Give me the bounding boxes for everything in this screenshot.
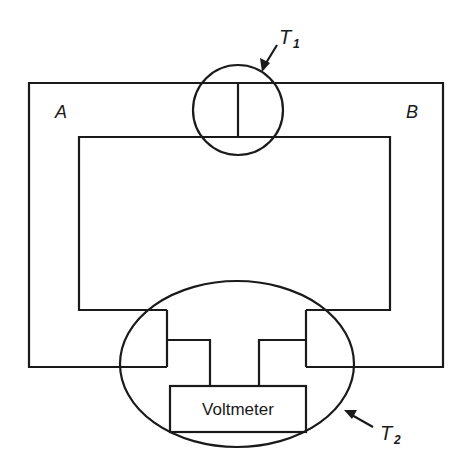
junction-t2-ellipse <box>120 281 354 447</box>
thermocouple-diagram: A B T 1 T 2 Voltmeter <box>0 0 466 466</box>
left-lead <box>167 340 210 386</box>
wire-b-inner <box>238 137 390 310</box>
label-t2-subscript: 2 <box>393 433 401 447</box>
voltmeter-label: Voltmeter <box>202 400 274 419</box>
label-b: B <box>406 102 418 122</box>
wire-a-inner <box>79 137 238 310</box>
label-t1: T <box>279 26 293 48</box>
right-lead <box>259 340 306 386</box>
label-a: A <box>54 102 67 122</box>
label-t2: T <box>380 422 394 444</box>
label-t1-subscript: 1 <box>293 37 300 51</box>
